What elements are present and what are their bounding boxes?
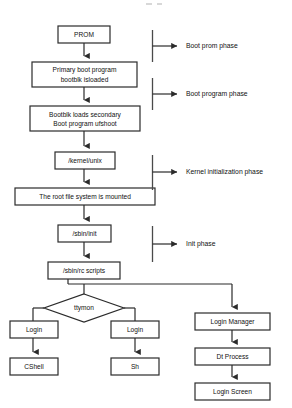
node-cshell-label: CShell [24, 363, 44, 370]
node-primary-boot-line1: Primary boot program [53, 66, 117, 74]
phase-label-boot-program: Boot program phase [186, 90, 248, 98]
node-dt-process-label: Dt Process [216, 353, 249, 360]
phase-label-boot-prom: Boot prom phase [186, 42, 238, 50]
node-sh-label: Sh [131, 363, 139, 370]
node-login-right-label: Login [127, 326, 143, 334]
node-bootblk-line2-rest: Boot program [53, 120, 95, 128]
node-ttymon-label: ttymon [74, 304, 94, 312]
phase-label-init: Init phase [186, 240, 216, 248]
node-sbin-rc-scripts-label: /sbin/rc scripts [63, 267, 106, 275]
flowchart-canvas: PROM Primary boot program bootblk isload… [0, 0, 292, 408]
flowchart-diagram: PROM Primary boot program bootblk isload… [0, 0, 292, 408]
node-bootblk-line1-rest: loads secondary [71, 110, 122, 118]
node-bootblk-line1: Bootblk loads secondary [49, 110, 122, 118]
node-bootblk-line2-underlined: ufshoot [95, 120, 117, 127]
node-bootblk-line2: Boot program ufshoot [53, 120, 117, 128]
node-sbin-init-label: /sbin/init [72, 230, 96, 237]
node-primary-boot-line2: bootblk isloaded [61, 76, 109, 83]
phase-label-kernel-init: Kernel initialization phase [186, 168, 263, 176]
scan-speck [157, 3, 162, 5]
node-login-screen-label: Login Screen [213, 388, 252, 396]
scan-speck [146, 3, 152, 5]
node-login-manager-label: Login Manager [211, 318, 256, 326]
node-root-mounted-label: The root file system is mounted [39, 193, 131, 201]
node-bootblk-line1-underlined: Bootblk [49, 110, 72, 117]
node-login-left-label: Login [26, 326, 42, 334]
node-kernel-unix-label: /kernel/unix [68, 157, 102, 164]
node-prom-label: PROM [74, 31, 94, 38]
